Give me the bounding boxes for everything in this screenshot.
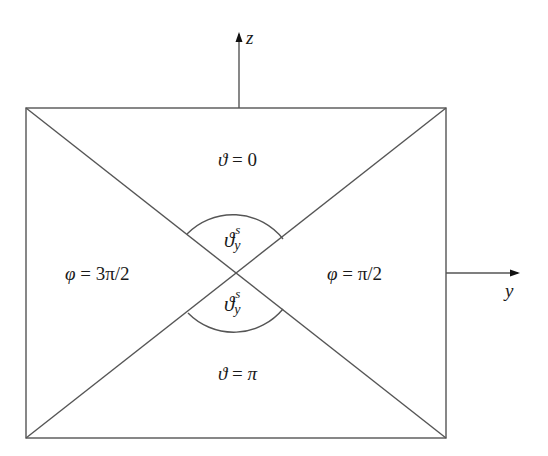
- z-axis-label: z: [246, 27, 253, 49]
- phi-symbol: φ: [65, 263, 76, 284]
- theta-symbol: ϑ: [218, 149, 227, 170]
- y-axis-label: y: [505, 280, 513, 302]
- theta-symbol: ϑ: [218, 363, 227, 384]
- diagram-canvas: [0, 0, 548, 456]
- lower-angle-label: ϑsy: [224, 292, 244, 317]
- equals-sign: =: [227, 363, 247, 384]
- superscript: s: [235, 222, 240, 238]
- subscript: y: [234, 238, 240, 254]
- value: π: [248, 363, 258, 384]
- value: π/2: [358, 263, 382, 284]
- phi-symbol: φ: [327, 263, 338, 284]
- equals-sign: =: [76, 263, 96, 284]
- superscript: s: [235, 286, 240, 302]
- value: 0: [248, 149, 258, 170]
- theta-symbol: ϑ: [224, 228, 234, 252]
- theta-symbol: ϑ: [224, 292, 234, 316]
- equals-sign: =: [338, 263, 358, 284]
- value: 3π/2: [96, 263, 130, 284]
- region-left-label: φ = 3π/2: [65, 263, 130, 285]
- region-top-label: ϑ = 0: [218, 149, 257, 171]
- upper-angle-label: ϑsy: [224, 228, 244, 253]
- subscript: y: [234, 302, 240, 318]
- region-right-label: φ = π/2: [327, 263, 382, 285]
- equals-sign: =: [227, 149, 247, 170]
- region-bottom-label: ϑ = π: [218, 363, 257, 385]
